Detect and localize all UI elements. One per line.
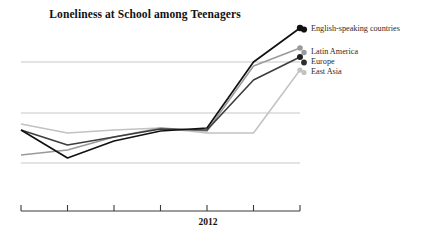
chart-plot-area [0,0,435,247]
legend-marker-icon [300,58,311,67]
legend-item-latin-america[interactable]: Latin America [300,47,358,57]
series-line-english-speaking-countries [21,28,300,158]
legend-marker-icon [300,48,311,57]
legend-item-east-asia[interactable]: East Asia [300,67,342,77]
legend-label: English-speaking countries [311,24,400,34]
legend-item-europe[interactable]: Europe [300,57,335,67]
legend-marker-icon [300,68,311,77]
legend-marker-icon [300,25,311,34]
series-line-east-asia [21,70,300,133]
legend-label: Latin America [311,47,358,57]
x-axis [21,205,300,211]
chart-container: Loneliness at School among Teenagers [0,0,435,247]
legend-item-english-speaking-countries[interactable]: English-speaking countries [300,24,400,34]
x-axis-tick-label-2012: 2012 [183,217,233,227]
legend-label: Europe [311,57,335,67]
series-line-latin-america [21,48,300,155]
legend-label: East Asia [311,67,342,77]
